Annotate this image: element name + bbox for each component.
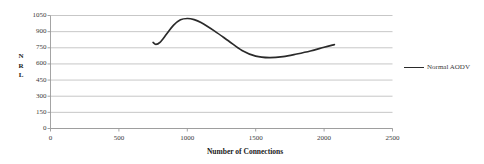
series-line-normal-aodv <box>153 19 334 58</box>
legend: Normal AODV <box>404 63 470 71</box>
legend-line-swatch <box>404 67 424 68</box>
axis-lines <box>51 16 393 129</box>
x-axis-title: Number of Connections <box>120 147 370 156</box>
chart-container: N R L 01503004506007509001050 0500100015… <box>0 0 484 164</box>
data-series-layer <box>153 19 334 58</box>
legend-label-normal-aodv: Normal AODV <box>427 63 470 71</box>
axis-ticks <box>48 16 393 132</box>
gridlines <box>51 16 393 129</box>
plot-area <box>0 0 484 164</box>
